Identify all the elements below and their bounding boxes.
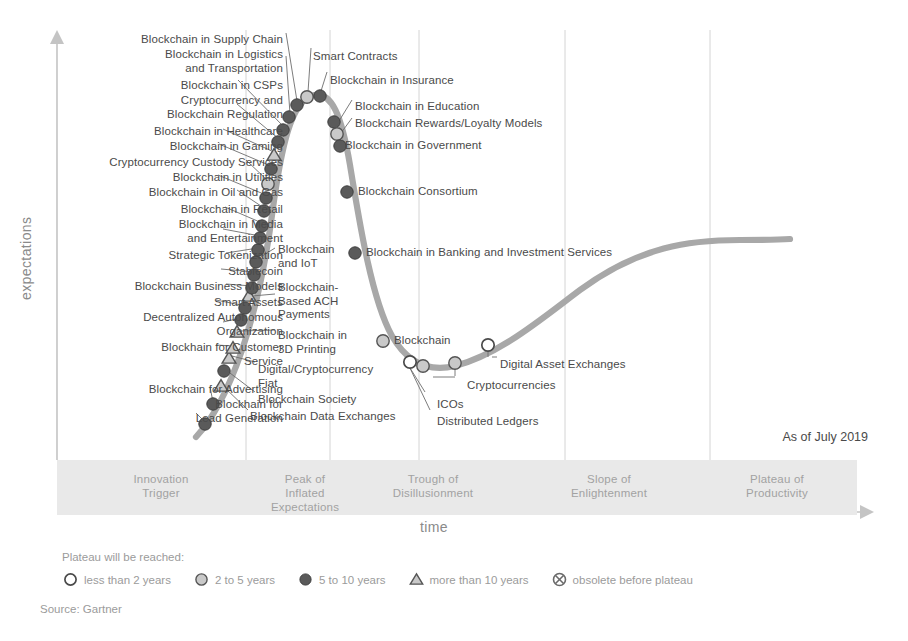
legend-item-label: 5 to 10 years	[319, 574, 385, 586]
point-label-line: Payments	[278, 308, 339, 322]
point-label: Blockchain in Retail	[95, 203, 283, 217]
legend-triangle-icon	[408, 571, 425, 588]
point-label-line: Cryptocurrencies	[467, 379, 556, 393]
phase-label-line: Innovation	[57, 472, 265, 486]
legend-item: 2 to 5 years	[193, 571, 275, 588]
data-point[interactable]: ICOs	[417, 360, 429, 372]
phase-label-line: Productivity	[697, 486, 857, 500]
point-label-line: Cryptocurrency and	[120, 94, 283, 108]
data-point[interactable]: Cryptocurrencies	[449, 357, 461, 369]
point-label-line: Strategic Tokenization	[95, 249, 283, 263]
phase-label-line: Trough of	[345, 472, 521, 486]
legend-item: less than 2 years	[62, 571, 171, 588]
point-label: Blockchain in Mediaand Entertainment	[95, 218, 283, 245]
point-label: Blockchain in CSPs	[120, 79, 283, 93]
x-axis-label: time	[420, 519, 448, 535]
point-label-line: Blockchain	[278, 243, 335, 257]
point-label-line: Blockchain Data Exchanges	[250, 410, 396, 424]
phase-label: Trough ofDisillusionment	[345, 472, 521, 500]
legend-open-circle-icon	[62, 571, 79, 588]
phase-label-line: Peak of	[265, 472, 345, 486]
phase-label-line: Enlightenment	[521, 486, 697, 500]
phase-label-line: Disillusionment	[345, 486, 521, 500]
point-label-line: Service	[65, 355, 283, 369]
point-label: Cryptocurrency andBlockchain Regulation	[120, 94, 283, 121]
point-label-line: Blockchain in Media	[95, 218, 283, 232]
point-label-line: Decentralized Autonomous	[60, 311, 283, 325]
legend-item-label: less than 2 years	[84, 574, 171, 586]
point-label: Blockchain in Education	[355, 100, 479, 114]
legend-item-label: obsolete before plateau	[573, 574, 693, 586]
point-label-line: Blockchain Society	[258, 393, 356, 407]
data-point[interactable]: Distributed Ledgers	[404, 356, 416, 368]
phase-label-line: Plateau of	[697, 472, 857, 486]
point-label-line: Blockchain in Supply Chain	[120, 33, 283, 47]
hype-cycle-chart: Blockhain for Lead GenerationBlockhain f…	[0, 0, 908, 641]
point-label-line: Blockchain in Education	[355, 100, 479, 114]
point-label: Blockchain Data Exchanges	[250, 410, 396, 424]
point-label-line: Blockchain in Healthcare	[95, 125, 283, 139]
legend-light-circle-icon	[193, 571, 210, 588]
data-point[interactable]: Blockchain	[377, 335, 389, 347]
point-label-line: Blockchain in Utilities	[95, 171, 283, 185]
data-point[interactable]: Blockchain Consortium	[341, 186, 353, 198]
point-label-line: Blockchain in Logistics	[120, 48, 283, 62]
legend-title: Plateau will be reached:	[62, 551, 184, 563]
point-label-line: Fiat	[258, 377, 373, 391]
point-label: Blockchain in Healthcare	[95, 125, 283, 139]
point-label: Decentralized AutonomousOrganization	[60, 311, 283, 338]
point-label: Blockhain for CustomerService	[65, 341, 283, 368]
legend-crossed-circle-icon	[551, 571, 568, 588]
point-label-line: and Transportation	[120, 62, 283, 76]
phase-label: Slope ofEnlightenment	[521, 472, 697, 500]
point-label-line: Blockchain Rewards/Loyalty Models	[355, 117, 542, 131]
point-label-line: Digital/Cryptocurrency	[258, 363, 373, 377]
data-point[interactable]: Smart Contracts	[301, 91, 313, 103]
point-label: Blockchain in Supply Chain	[120, 33, 283, 47]
point-label-line: Blockhain for Customer	[65, 341, 283, 355]
data-point[interactable]: Blockchain Rewards/Loyalty Models	[331, 128, 343, 140]
phase-label-line: Slope of	[521, 472, 697, 486]
point-label: Digital Asset Exchanges	[500, 358, 626, 372]
data-point[interactable]: Blockchain in Insurance	[314, 90, 326, 102]
point-label: Blockchain Business Models	[60, 280, 283, 294]
point-label-line: Blockchain Business Models	[60, 280, 283, 294]
point-label: Digital/CryptocurrencyFiat	[258, 363, 373, 390]
point-label: Blockchain Rewards/Loyalty Models	[355, 117, 542, 131]
point-label-line: Blockchain-	[278, 281, 339, 295]
point-label: Blockchain in Gaming	[95, 140, 283, 154]
phase-label-line: Expectations	[265, 500, 345, 514]
point-label: Blockchain in Government	[345, 139, 482, 153]
point-label-line: Cryptocurrency Custody Services	[55, 156, 283, 170]
point-label: Smart Contracts	[313, 50, 398, 64]
point-label-line: Blockchain Consortium	[358, 185, 478, 199]
source-note: Source: Gartner	[40, 603, 122, 615]
point-label: Cryptocurrency Custody Services	[55, 156, 283, 170]
point-label-line: Stablecoin	[95, 265, 283, 279]
point-label: Blockchain Society	[258, 393, 356, 407]
point-label: Blockchainand IoT	[278, 243, 335, 270]
data-point[interactable]: Blockchain in Logistics and Transportati…	[283, 111, 295, 123]
point-label-line: Blockchain	[394, 334, 451, 348]
point-label-line: Blockchain in	[278, 329, 347, 343]
data-point[interactable]: Digital Asset Exchanges	[482, 339, 494, 351]
point-label: Cryptocurrencies	[467, 379, 556, 393]
point-label-line: Blockchain in Government	[345, 139, 482, 153]
point-label: Blockchain Consortium	[358, 185, 478, 199]
point-label-line: Blockchain in Insurance	[330, 74, 454, 88]
data-point[interactable]: Blockchain in Banking and Investment Ser…	[349, 247, 361, 259]
point-label: Blockchain-Based ACHPayments	[278, 281, 339, 322]
point-label-line: Blockchain for Advertising	[65, 383, 283, 397]
point-label-line: Based ACH	[278, 295, 339, 309]
data-point[interactable]: Blockchain in Education	[328, 116, 340, 128]
point-label: Blockchain for Advertising	[65, 383, 283, 397]
point-label: Blockchain in3D Printing	[278, 329, 347, 356]
phase-label: Peak ofInflatedExpectations	[265, 472, 345, 514]
legend-item-label: more than 10 years	[430, 574, 529, 586]
point-label-line: Smart Assets	[95, 296, 283, 310]
point-label: Distributed Ledgers	[437, 415, 539, 429]
point-label: Stablecoin	[95, 265, 283, 279]
legend-dark-circle-icon	[297, 571, 314, 588]
point-label-line: Blockchain in Gaming	[95, 140, 283, 154]
point-label-line: Blockchain Regulation	[120, 108, 283, 122]
